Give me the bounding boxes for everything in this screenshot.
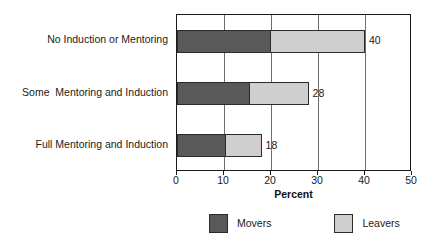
legend-label-movers: Movers <box>237 218 271 229</box>
x-axis-tick-label: 0 <box>173 175 179 186</box>
bar-segment-movers <box>177 82 250 105</box>
x-axis-tick-label: 50 <box>405 175 417 186</box>
x-axis-tick-label: 10 <box>217 175 229 186</box>
legend-swatch-movers <box>209 214 228 233</box>
x-axis-tick-label: 40 <box>358 175 370 186</box>
category-label-no-induction: No Induction or Mentoring <box>0 34 168 45</box>
legend-item-movers: Movers <box>209 214 271 233</box>
bar-total-label: 18 <box>266 140 278 151</box>
legend-item-leavers: Leavers <box>334 214 399 233</box>
legend-label-leavers: Leavers <box>362 218 399 229</box>
bar-total-label: 28 <box>313 88 325 99</box>
category-label-some-mentoring: Some Mentoring and Induction <box>0 87 168 98</box>
bar-segment-leavers <box>250 82 309 105</box>
x-axis-tick-label: 20 <box>264 175 276 186</box>
gridline <box>365 15 366 170</box>
chart-legend: Movers Leavers <box>176 210 432 236</box>
category-label-full-mentoring: Full Mentoring and Induction <box>0 139 168 150</box>
bar-group <box>177 134 262 157</box>
legend-swatch-leavers <box>334 214 353 233</box>
bar-segment-movers <box>177 134 226 157</box>
bar-group <box>177 30 365 53</box>
x-axis-title: Percent <box>176 189 411 200</box>
bar-segment-movers <box>177 30 271 53</box>
bar-segment-leavers <box>271 30 365 53</box>
category-axis-labels: No Induction or Mentoring Some Mentoring… <box>0 0 172 174</box>
bar-group <box>177 82 309 105</box>
stacked-bar-chart: No Induction or Mentoring Some Mentoring… <box>0 0 432 244</box>
bar-segment-leavers <box>226 134 261 157</box>
bar-total-label: 40 <box>369 35 381 46</box>
x-axis-tick-label: 30 <box>311 175 323 186</box>
